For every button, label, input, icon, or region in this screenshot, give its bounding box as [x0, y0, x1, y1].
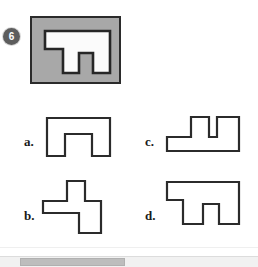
prompt-card [30, 16, 121, 84]
option-d-shape-polygon [167, 182, 239, 224]
page-divider [0, 247, 258, 248]
prompt-figure [43, 29, 112, 75]
option-b-figure [41, 179, 103, 235]
option-c-figure [165, 115, 241, 153]
option-b[interactable]: b. [0, 176, 129, 242]
option-c-shape-polygon [167, 117, 239, 151]
option-a-figure [45, 116, 112, 158]
option-b-label: b. [24, 208, 34, 224]
option-a-shape-polygon [47, 118, 110, 156]
option-d[interactable]: d. [129, 176, 258, 242]
option-d-label: d. [145, 208, 155, 224]
prompt-shape-polygon [45, 31, 110, 73]
option-b-shape-polygon [43, 181, 101, 233]
option-c-label: c. [145, 134, 154, 150]
option-d-figure [165, 180, 241, 226]
option-c[interactable]: c. [129, 108, 258, 170]
horizontal-scrollbar-thumb[interactable] [20, 258, 125, 266]
option-a[interactable]: a. [0, 108, 129, 170]
option-a-label: a. [24, 134, 34, 150]
horizontal-scrollbar-track[interactable] [0, 256, 258, 267]
quiz-question-panel: 6 a. b. c. [0, 0, 258, 267]
question-number-badge: 6 [3, 28, 20, 45]
